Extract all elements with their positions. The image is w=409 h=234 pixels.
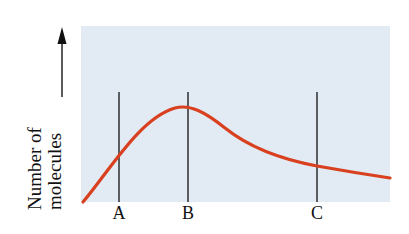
y-axis-label-line-1: Number of (25, 127, 45, 210)
y-axis-arrowhead-icon (58, 27, 67, 44)
marker-label-b: B (182, 203, 194, 224)
y-axis-label-line-2: molecules (45, 127, 65, 210)
marker-label-c: C (311, 203, 323, 224)
y-axis-label: Number of molecules (25, 127, 65, 210)
distribution-curve (83, 107, 390, 202)
marker-label-a: A (113, 203, 126, 224)
